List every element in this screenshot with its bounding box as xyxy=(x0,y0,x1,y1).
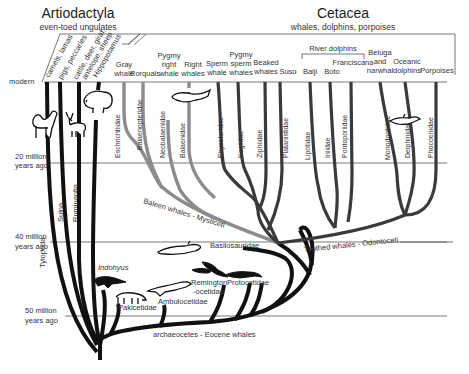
label-pygmy-right-3: whale xyxy=(158,69,179,78)
branch-platanistidae xyxy=(268,82,282,230)
artiodactyla-title: Artiodactyla xyxy=(41,5,114,21)
label-gray-whale-1: Gray xyxy=(116,60,133,69)
label-pygmy-sperm-1: Pygmy xyxy=(230,50,253,59)
label-remingtonocetidae-1: Remington xyxy=(191,278,227,287)
cetacean-phylogeny-diagram: Artiodactyla even-toed ungulates Cetacea… xyxy=(0,0,469,374)
clade-tylopoda: Tylopoda xyxy=(38,237,47,268)
branch-physeteridae xyxy=(218,82,278,243)
family-pontoporiidae: Pontoporiidae xyxy=(341,115,349,158)
label-right-whales-1: Right xyxy=(184,60,202,69)
right-whale-icon xyxy=(172,90,210,102)
branch-balaenidae xyxy=(189,92,215,198)
label-boto: Boto xyxy=(324,67,339,76)
label-pygmy-sperm-2: sperm xyxy=(231,59,252,68)
label-archaeocetes: archaeocetes - Eocene whales xyxy=(153,330,256,339)
cetacea-title: Cetacea xyxy=(317,5,369,21)
label-beaked-whales-2: whales xyxy=(253,67,278,76)
50-mya-label-2: years ago xyxy=(25,316,58,325)
label-beaked-whales-1: Beaked xyxy=(253,58,278,67)
label-right-whales-2: whales xyxy=(180,69,205,78)
family-neobalaenidae: Neobalaenidae xyxy=(159,111,166,158)
dolphin-icon xyxy=(390,114,420,124)
family-balaenopteridae: Balaenopteridae xyxy=(136,99,144,150)
label-beluga-2: and xyxy=(374,57,387,66)
cetacea-subtitle: whales, dolphins, porpoises xyxy=(290,22,395,32)
basilosaurus-icon xyxy=(158,241,201,254)
family-kogiidae: Kogiidae xyxy=(237,131,245,158)
20-mya-label-1: 20 million xyxy=(15,152,47,161)
label-pakicetidae: Pakicetidae xyxy=(118,303,157,312)
label-pygmy-sperm-3: whales xyxy=(228,68,253,77)
family-platanistidae: Platanistidae xyxy=(282,118,289,158)
label-baiji: Baiji xyxy=(303,67,318,76)
label-remingtonocetidae-2: -ocetidae xyxy=(193,287,224,296)
family-monodontidae: Monodontidae xyxy=(384,116,391,160)
label-sperm-whale-2: whale xyxy=(206,68,227,77)
50-mya-label-1: 50 million xyxy=(25,306,57,315)
label-basilosauridae: Basilosauridae xyxy=(210,241,259,250)
label-oceanic-dolphins-2: dolphins xyxy=(393,66,421,75)
branch-hippo xyxy=(93,120,99,340)
label-ambulocetidae: Ambulocetidae xyxy=(158,297,208,306)
modern-label: modern xyxy=(9,77,34,86)
family-ziphiidae: Ziphiidae xyxy=(256,129,264,158)
bracket-break xyxy=(134,34,146,45)
family-delphinidae: Delphinidae xyxy=(404,121,412,158)
branch-pontoporiidae xyxy=(348,82,352,222)
label-indohyus: Indohyus xyxy=(98,263,129,272)
family-balaenidae: Balaenidae xyxy=(179,123,186,158)
label-porpoises: Porpoises xyxy=(420,66,454,75)
label-protocetidae: Protocetidae xyxy=(227,278,269,287)
label-sperm-whale-1: Sperm xyxy=(206,59,228,68)
river-dolphins-label: River dolphins xyxy=(309,44,357,53)
label-beluga-3: narwhal xyxy=(367,66,394,75)
label-susu: Susu xyxy=(279,67,296,76)
20-mya-label-2: years ago xyxy=(15,161,48,170)
ambulocetus-icon xyxy=(148,282,191,296)
branch-iniidae xyxy=(330,82,337,228)
hippo-icon xyxy=(84,91,112,113)
label-oceanic-dolphins-1: Oceanic xyxy=(393,57,421,66)
antelope-icon xyxy=(66,112,86,137)
label-pygmy-right-1: Pygmy xyxy=(158,51,181,60)
family-lipotidae: Lipotidae xyxy=(304,131,312,160)
branch-hippo-tip xyxy=(98,82,99,90)
family-phocoenidae: Phocoenidae xyxy=(427,117,434,158)
indohyus-icon xyxy=(94,277,126,288)
camel-icon xyxy=(33,111,57,138)
family-physeteridae: Physeteridae xyxy=(217,117,225,158)
label-beluga-1: Beluga xyxy=(368,48,392,57)
family-eschrichtiidae: Eschrichtiidae xyxy=(114,114,121,158)
label-pygmy-right-2: right xyxy=(162,60,178,69)
basilosaurid-small-icon xyxy=(192,269,211,274)
label-rorquals: Rorquals xyxy=(130,69,160,78)
family-iniidae: Iniidae xyxy=(324,137,331,158)
